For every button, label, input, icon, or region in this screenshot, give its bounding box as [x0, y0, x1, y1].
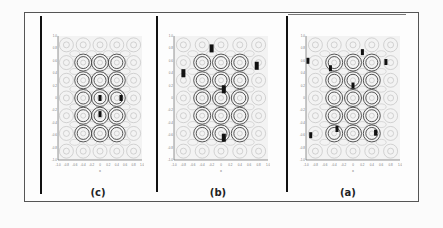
svg-text:0.4: 0.4: [370, 163, 375, 167]
svg-text:0.8: 0.8: [53, 46, 58, 50]
particle-marker: [374, 130, 377, 136]
svg-text:0: 0: [99, 163, 101, 167]
svg-text:-0.2: -0.2: [168, 108, 174, 112]
panel-label-a: (a): [328, 187, 368, 198]
particle-marker: [181, 69, 185, 77]
contour-svg: -1.0-0.8-0.6-0.4-0.200.20.40.60.81.0-1.0…: [166, 34, 270, 174]
svg-text:-0.8: -0.8: [168, 146, 174, 150]
svg-text:-0.4: -0.4: [168, 121, 174, 125]
panel-divider: [156, 16, 158, 192]
svg-text:0.2: 0.2: [53, 84, 58, 88]
panel-label-b: (b): [198, 187, 238, 198]
particle-marker: [309, 132, 312, 138]
svg-text:-0.4: -0.4: [81, 163, 87, 167]
svg-text:1.0: 1.0: [169, 34, 174, 38]
svg-text:-1.0: -1.0: [55, 163, 61, 167]
svg-text:-1.0: -1.0: [303, 163, 309, 167]
svg-text:-0.6: -0.6: [190, 163, 196, 167]
particle-marker: [222, 85, 226, 93]
svg-text:-0.2: -0.2: [300, 108, 306, 112]
particle-marker: [361, 49, 364, 55]
svg-text:-0.2: -0.2: [52, 108, 58, 112]
svg-text:0.6: 0.6: [379, 163, 384, 167]
svg-text:1.0: 1.0: [398, 163, 402, 167]
svg-text:-0.8: -0.8: [52, 146, 58, 150]
svg-text:-0.4: -0.4: [52, 121, 58, 125]
particle-marker: [255, 62, 259, 70]
svg-text:0.2: 0.2: [360, 163, 365, 167]
svg-text:-0.6: -0.6: [52, 133, 58, 137]
svg-text:1.0: 1.0: [301, 34, 306, 38]
particle-marker: [329, 65, 332, 71]
svg-text:-1.0: -1.0: [168, 158, 174, 162]
svg-text:0.8: 0.8: [257, 163, 262, 167]
svg-text:-0.6: -0.6: [322, 163, 328, 167]
svg-text:-0.8: -0.8: [313, 163, 319, 167]
svg-text:0.4: 0.4: [115, 163, 120, 167]
svg-text:-0.4: -0.4: [300, 121, 306, 125]
svg-text:x: x: [352, 168, 354, 173]
svg-text:0: 0: [303, 96, 305, 100]
particle-marker: [306, 58, 309, 64]
svg-text:0.6: 0.6: [123, 163, 128, 167]
svg-text:0.2: 0.2: [301, 84, 306, 88]
particle-marker: [210, 44, 214, 52]
svg-text:-0.6: -0.6: [168, 133, 174, 137]
svg-text:-0.2: -0.2: [341, 163, 347, 167]
svg-text:1.0: 1.0: [140, 163, 144, 167]
particle-marker: [336, 126, 339, 132]
svg-text:-0.8: -0.8: [181, 163, 187, 167]
svg-text:-1.0: -1.0: [300, 158, 306, 162]
svg-text:0: 0: [220, 163, 222, 167]
particle-marker: [99, 95, 102, 101]
particle-marker: [352, 83, 355, 89]
contour-plot-b: -1.0-0.8-0.6-0.4-0.200.20.40.60.81.0-1.0…: [166, 34, 270, 174]
svg-text:x: x: [99, 168, 101, 173]
svg-text:0.2: 0.2: [106, 163, 111, 167]
svg-text:0.6: 0.6: [301, 59, 306, 63]
svg-text:-0.6: -0.6: [300, 133, 306, 137]
svg-text:-0.8: -0.8: [300, 146, 306, 150]
svg-text:-0.4: -0.4: [332, 163, 338, 167]
particle-marker: [99, 111, 102, 117]
contour-plot-a: -1.0-0.8-0.6-0.4-0.200.20.40.60.81.0-1.0…: [298, 34, 402, 174]
svg-text:1.0: 1.0: [266, 163, 270, 167]
svg-text:-0.6: -0.6: [72, 163, 78, 167]
svg-text:0.4: 0.4: [53, 71, 58, 75]
svg-text:0: 0: [352, 163, 354, 167]
particle-marker: [120, 95, 123, 101]
svg-text:0.4: 0.4: [301, 71, 306, 75]
svg-text:-1.0: -1.0: [171, 163, 177, 167]
svg-text:0.6: 0.6: [169, 59, 174, 63]
svg-text:x: x: [220, 168, 222, 173]
svg-text:0.8: 0.8: [132, 163, 137, 167]
svg-text:0: 0: [55, 96, 57, 100]
panel-divider: [40, 16, 42, 194]
contour-plot-c: -1.0-0.8-0.6-0.4-0.200.20.40.60.81.0-1.0…: [50, 34, 144, 174]
svg-text:-0.4: -0.4: [200, 163, 206, 167]
svg-text:0.6: 0.6: [247, 163, 252, 167]
svg-text:0.8: 0.8: [389, 163, 394, 167]
svg-text:0.8: 0.8: [301, 46, 306, 50]
svg-text:-0.2: -0.2: [89, 163, 95, 167]
particle-marker: [222, 134, 226, 142]
svg-text:1.0: 1.0: [53, 34, 58, 38]
svg-text:-1.0: -1.0: [52, 158, 58, 162]
svg-text:0.2: 0.2: [228, 163, 233, 167]
panel-divider: [286, 16, 288, 192]
svg-text:-0.8: -0.8: [64, 163, 70, 167]
panel-top-rule: [288, 14, 406, 15]
contour-svg: -1.0-0.8-0.6-0.4-0.200.20.40.60.81.0-1.0…: [50, 34, 144, 174]
panel-label-c: (c): [78, 187, 118, 198]
svg-text:0.8: 0.8: [169, 46, 174, 50]
svg-text:0: 0: [171, 96, 173, 100]
svg-text:0.4: 0.4: [169, 71, 174, 75]
contour-svg: -1.0-0.8-0.6-0.4-0.200.20.40.60.81.0-1.0…: [298, 34, 402, 174]
svg-text:0.6: 0.6: [53, 59, 58, 63]
svg-text:0.4: 0.4: [238, 163, 243, 167]
svg-text:-0.2: -0.2: [209, 163, 215, 167]
particle-marker: [384, 59, 387, 65]
svg-text:0.2: 0.2: [169, 84, 174, 88]
